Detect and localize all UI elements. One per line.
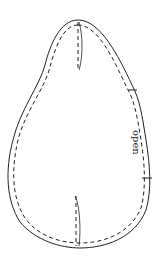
pattern-diagram: open: [0, 0, 161, 257]
top-dart-edge: [79, 22, 82, 70]
pattern-label: open: [131, 130, 142, 155]
